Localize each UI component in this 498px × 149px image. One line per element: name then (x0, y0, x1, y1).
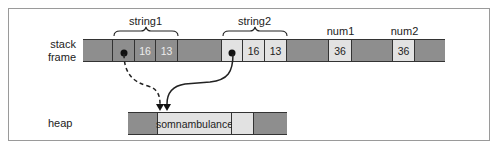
string1-pointer-arrow-icon (124, 54, 160, 106)
arrowhead-icon (163, 104, 171, 111)
diagram-overlay (0, 0, 498, 149)
arrowhead-icon (156, 104, 164, 111)
string2-brace-icon (223, 27, 287, 36)
string2-pointer-arrow-icon (167, 54, 233, 106)
string1-brace-icon (114, 27, 178, 36)
